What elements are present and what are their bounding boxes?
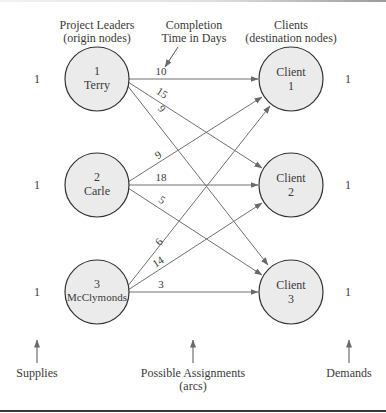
times-pointer-arrow: [165, 47, 178, 67]
origin-number: 3: [94, 277, 100, 291]
origins-header-line1: Project Leaders: [60, 18, 135, 32]
arc-time-1-3: 9: [156, 103, 169, 115]
origin-name: McClymonds: [67, 291, 127, 303]
destination-node-2: Client 2: [259, 153, 323, 217]
supply-3: 1: [34, 285, 40, 299]
origin-node-2: 2 Carle: [65, 153, 129, 217]
arc-3-1: [127, 106, 270, 287]
destination-number: 3: [288, 292, 294, 306]
origin-node-3: 3 McClymonds: [65, 260, 129, 324]
destination-label: Client: [276, 65, 306, 79]
arc-time-2-1: 9: [152, 148, 163, 161]
demand-1: 1: [345, 72, 351, 86]
origins-header-line2: (origin nodes): [63, 31, 131, 45]
origin-node-1: 1 Terry: [65, 47, 129, 111]
arcs: [127, 79, 270, 292]
times-header-line2: Time in Days: [162, 31, 227, 45]
destination-number: 1: [288, 79, 294, 93]
destination-label: Client: [276, 278, 306, 292]
arc-time-1-1: 10: [156, 65, 168, 77]
arc-2-1: [128, 97, 262, 182]
origin-name: Carle: [84, 184, 110, 198]
destination-number: 2: [288, 185, 294, 199]
origin-number: 1: [94, 64, 100, 78]
supply-1: 1: [34, 72, 40, 86]
destinations-header-line1: Clients: [274, 18, 308, 32]
origin-name: Terry: [84, 78, 110, 92]
arc-3-2: [128, 203, 262, 290]
arc-time-2-2: 18: [156, 171, 168, 183]
supplies-label: Supplies: [16, 366, 58, 380]
assignments-label-line1: Possible Assignments: [141, 366, 246, 380]
supply-2: 1: [34, 178, 40, 192]
destination-node-1: Client 1: [259, 47, 323, 111]
destinations-header-line2: (destination nodes): [245, 31, 337, 45]
bottom-rule: [0, 410, 386, 412]
origin-number: 2: [94, 170, 100, 184]
assignments-label-line2: (arcs): [179, 379, 206, 393]
arc-time-2-3: 5: [157, 193, 169, 206]
destination-label: Client: [276, 171, 306, 185]
arc-1-2: [128, 82, 262, 168]
arc-time-3-3: 3: [158, 278, 164, 290]
arc-time-1-2: 15: [154, 85, 170, 101]
destination-node-3: Client 3: [259, 260, 323, 324]
demand-3: 1: [345, 285, 351, 299]
arc-1-3: [127, 85, 268, 265]
demand-2: 1: [345, 178, 351, 192]
assignment-network-diagram: Project Leaders (origin nodes) Completio…: [0, 0, 386, 413]
demands-label: Demands: [326, 366, 372, 380]
times-header-line1: Completion: [166, 18, 223, 32]
